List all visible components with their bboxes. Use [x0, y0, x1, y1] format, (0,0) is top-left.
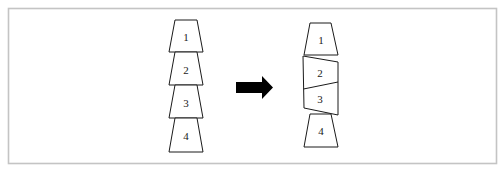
left-block-2: 2 [169, 52, 203, 85]
right-stack: 1 2 3 4 [303, 23, 338, 147]
right-block-4-label: 4 [318, 125, 324, 137]
right-block-2-3-merged: 2 3 [303, 56, 338, 115]
left-block-3: 3 [169, 85, 203, 118]
left-block-4: 4 [169, 118, 203, 152]
left-block-3-label: 3 [183, 97, 189, 109]
left-block-2-label: 2 [183, 64, 189, 76]
left-block-4-label: 4 [183, 130, 189, 142]
left-block-1-label: 1 [183, 31, 189, 43]
stacking-diagram: 1 2 3 4 1 2 3 4 [0, 0, 502, 173]
right-block-2-label: 2 [317, 67, 323, 79]
left-block-1: 1 [169, 20, 203, 52]
right-block-3-label: 3 [317, 93, 323, 105]
right-block-1-label: 1 [318, 34, 324, 46]
